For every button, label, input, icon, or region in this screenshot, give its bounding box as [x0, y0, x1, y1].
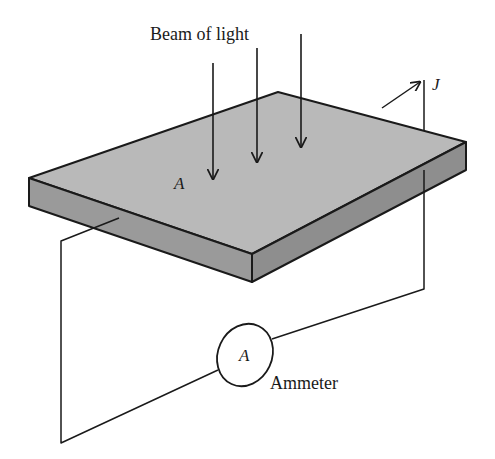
slab-top-face — [29, 92, 466, 254]
current-label: J — [432, 75, 441, 94]
photoelectric-diagram: Beam of light J A A Ammeter — [0, 0, 495, 459]
surface-label: A — [173, 174, 185, 193]
ammeter-label: Ammeter — [270, 373, 338, 393]
metal-slab — [29, 92, 466, 282]
ammeter-symbol: A — [238, 346, 250, 365]
beam-label: Beam of light — [150, 24, 249, 44]
